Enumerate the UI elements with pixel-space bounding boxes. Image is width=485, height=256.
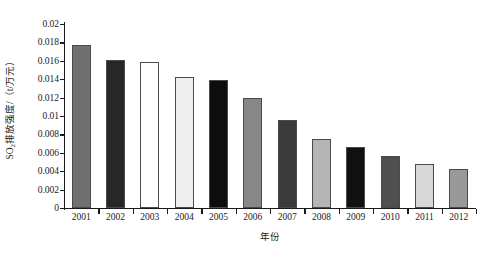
x-tick-label: 2008 (312, 212, 331, 222)
y-axis-title-prefix: SO (5, 147, 15, 159)
x-tick-label: 2012 (449, 212, 468, 222)
y-tick-label: 0.006 (38, 148, 59, 158)
x-tick-label: 2004 (175, 212, 194, 222)
y-tick-label: 0.01 (42, 111, 59, 121)
x-tick-label: 2006 (243, 212, 262, 222)
y-tick-label: 0.012 (38, 93, 59, 103)
y-tick-mark (60, 208, 65, 209)
y-tick-mark (60, 61, 65, 62)
x-tick-label: 2002 (106, 212, 125, 222)
y-axis-title-suffix: 排放强度/（t/万元） (5, 56, 15, 144)
y-tick-mark (60, 98, 65, 99)
x-tick-label: 2003 (140, 212, 159, 222)
plot-area (64, 24, 476, 208)
y-tick-label: 0.02 (42, 19, 59, 29)
bar-2005 (209, 80, 228, 208)
bar-2007 (278, 120, 297, 208)
bar-2003 (140, 62, 159, 208)
bar-2004 (175, 77, 194, 208)
x-tick-label: 2007 (278, 212, 297, 222)
y-tick-mark (60, 24, 65, 25)
bar-series (64, 24, 476, 208)
y-tick-mark (60, 42, 65, 43)
y-tick-label: 0.004 (38, 166, 59, 176)
y-tick-label: 0 (54, 203, 59, 213)
x-tick-mark (476, 209, 477, 214)
y-axis-tick-labels: 00.0020.0040.0060.0080.010.0120.0140.016… (18, 0, 62, 256)
bar-2010 (381, 156, 400, 208)
y-tick-label: 0.014 (38, 74, 59, 84)
bar-2008 (312, 139, 331, 208)
y-tick-label: 0.016 (38, 56, 59, 66)
y-axis-title-subscript: 2 (9, 144, 17, 148)
x-tick-label: 2001 (72, 212, 91, 222)
x-tick-label: 2011 (415, 212, 434, 222)
y-tick-mark (60, 116, 65, 117)
x-axis-title: 年份 (64, 229, 476, 243)
y-tick-mark (60, 190, 65, 191)
x-axis-tick-labels: 2001200220032004200520062007200820092010… (64, 212, 476, 228)
bar-2002 (106, 60, 125, 208)
y-tick-label: 0.002 (38, 185, 59, 195)
bar-2006 (243, 98, 262, 208)
y-tick-mark (60, 153, 65, 154)
y-tick-mark (60, 79, 65, 80)
x-tick-label: 2010 (381, 212, 400, 222)
y-tick-label: 0.008 (38, 129, 59, 139)
x-tick-label: 2009 (346, 212, 365, 222)
x-tick-label: 2005 (209, 212, 228, 222)
bar-chart-figure: SO2排放强度/（t/万元） 00.0020.0040.0060.0080.01… (0, 0, 485, 256)
bar-2012 (449, 169, 468, 208)
y-tick-mark (60, 171, 65, 172)
y-tick-mark (60, 134, 65, 135)
y-tick-label: 0.018 (38, 37, 59, 47)
bar-2001 (72, 45, 91, 208)
bar-2011 (415, 164, 434, 208)
bar-2009 (346, 147, 365, 208)
